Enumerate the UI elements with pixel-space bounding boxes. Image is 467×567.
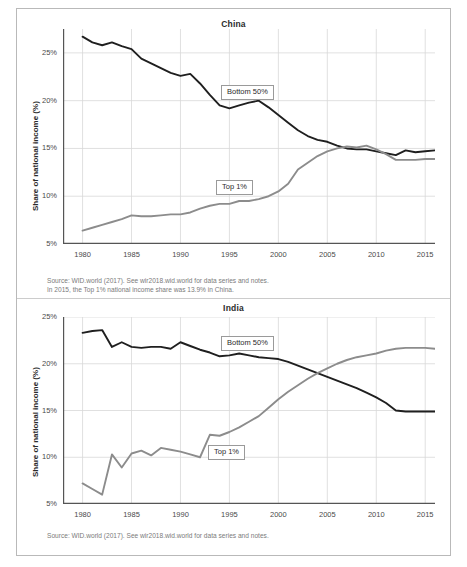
- legend-label-top1-india: Top 1%: [208, 445, 245, 460]
- y-axis-tick-label: 10%: [31, 191, 57, 200]
- x-axis-tick-label: 2015: [408, 510, 442, 519]
- x-axis-tick-label: 1990: [163, 510, 197, 519]
- chart-title-china: China: [17, 19, 450, 29]
- x-axis-tick-label: 2010: [359, 510, 393, 519]
- x-axis-tick-label: 1980: [66, 510, 100, 519]
- source-note-china-line2: In 2015, the Top 1% national income shar…: [47, 285, 234, 295]
- y-axis-tick-label: 25%: [31, 312, 57, 321]
- y-axis-tick-label: 15%: [31, 406, 57, 415]
- x-axis-tick-label: 2015: [408, 250, 442, 259]
- x-axis-tick-label: 1985: [115, 250, 149, 259]
- figure-frame: China Share of national income (%) Botto…: [16, 8, 451, 556]
- x-axis-tick-label: 1980: [66, 250, 100, 259]
- y-axis-tick-label: 20%: [31, 359, 57, 368]
- chart-panel-india: India Share of national income (%) Botto…: [17, 299, 450, 555]
- legend-label-bottom50-india: Bottom 50%: [221, 336, 274, 351]
- x-axis-tick-label: 2000: [261, 250, 295, 259]
- x-axis-tick-label: 2010: [359, 250, 393, 259]
- x-axis-tick-label: 1995: [212, 510, 246, 519]
- source-note-india-line1: Source: WID.world (2017). See wir2018.wi…: [47, 531, 269, 541]
- legend-label-bottom50-china: Bottom 50%: [221, 85, 274, 100]
- chart-panel-china: China Share of national income (%) Botto…: [17, 11, 450, 299]
- x-axis-tick-label: 1990: [163, 250, 197, 259]
- plot-area-china: [63, 29, 435, 244]
- y-axis-tick-label: 15%: [31, 143, 57, 152]
- x-axis-tick-label: 1995: [212, 250, 246, 259]
- y-axis-tick-label: 10%: [31, 452, 57, 461]
- x-axis-tick-label: 1985: [115, 510, 149, 519]
- x-axis-tick-label: 2005: [310, 510, 344, 519]
- legend-label-top1-china: Top 1%: [216, 180, 253, 195]
- x-axis-tick-label: 2000: [261, 510, 295, 519]
- y-axis-tick-label: 25%: [31, 48, 57, 57]
- line-chart-china: [63, 29, 435, 244]
- figure-root: China Share of national income (%) Botto…: [0, 0, 467, 567]
- x-axis-tick-label: 2005: [310, 250, 344, 259]
- chart-title-india: India: [17, 303, 450, 313]
- y-axis-tick-label: 20%: [31, 96, 57, 105]
- y-axis-tick-label: 5%: [31, 239, 57, 248]
- y-axis-tick-label: 5%: [31, 499, 57, 508]
